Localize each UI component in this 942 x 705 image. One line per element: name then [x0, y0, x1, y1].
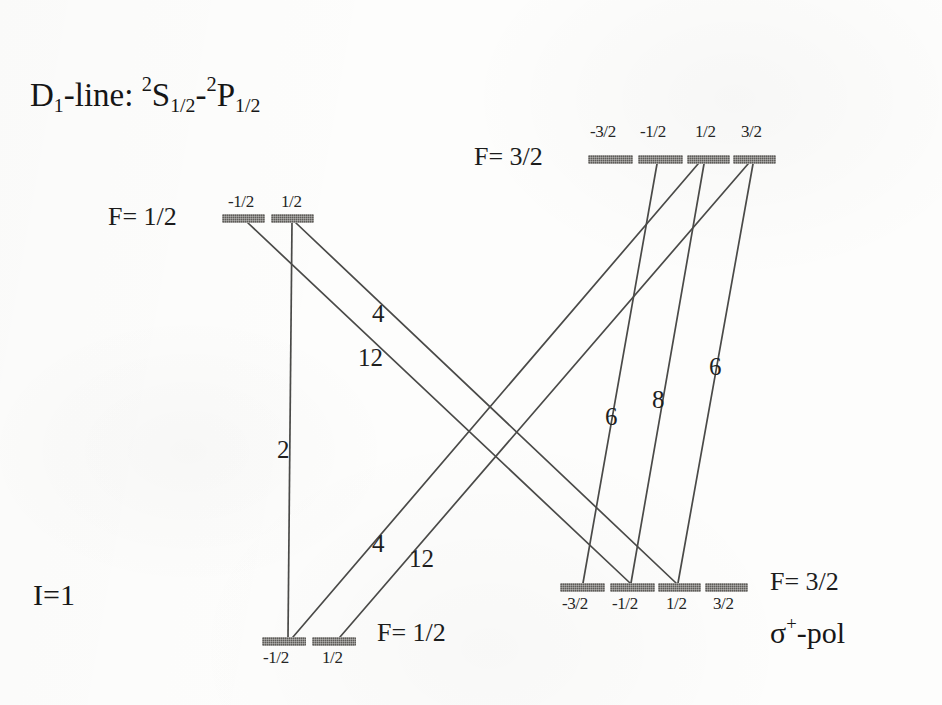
level-bar-lower-left-m1-2 — [312, 637, 356, 646]
level-bar-lower-right-m-3-2 — [560, 583, 605, 592]
sublevel-label-lower-left-m1-2: 1/2 — [322, 648, 343, 668]
level-group-label-upper-left: F= 1/2 — [108, 202, 177, 232]
level-bar-upper-left-m-1-2 — [222, 214, 265, 223]
transition-line-ul-half-to-lr-halfplus — [296, 223, 676, 583]
level-bar-upper-right-m-1-2 — [638, 155, 683, 164]
sublevel-label-upper-left-m-1-2: -1/2 — [228, 192, 254, 212]
sublevel-label-lower-left-m-1-2: -1/2 — [263, 648, 289, 668]
level-group-label-lower-right: F= 3/2 — [770, 567, 839, 597]
transition-line-ur-threehalf-to-ll-half — [340, 164, 748, 637]
sublevel-label-upper-left-m1-2: 1/2 — [281, 192, 302, 212]
transition-strength-ur-half-to-lr-minushalf: 8 — [652, 386, 665, 414]
transition-line-ul-half-to-ll-minushalf — [288, 223, 292, 637]
transition-strength-ul-half-to-ll-minushalf: 2 — [277, 436, 290, 464]
sublevel-label-upper-right-m-3-2: -3/2 — [590, 122, 616, 142]
sublevel-label-lower-right-m3-2: 3/2 — [713, 594, 734, 614]
transition-strength-ul-minushalf-to-lr-minushalf: 4 — [372, 300, 385, 328]
transition-line-ur-half-to-lr-minushalf — [631, 164, 704, 583]
sublevel-label-lower-right-m1-2: 1/2 — [666, 594, 687, 614]
sublevel-label-upper-right-m3-2: 3/2 — [741, 122, 762, 142]
transition-strength-ur-threehalf-to-lr-half: 6 — [709, 353, 722, 381]
level-bar-upper-right-m-3-2 — [588, 155, 633, 164]
level-bar-upper-right-m3-2 — [733, 155, 776, 164]
level-bar-lower-left-m-1-2 — [262, 637, 306, 646]
level-bar-lower-right-m-1-2 — [610, 583, 655, 592]
transition-line-ul-minushalf-to-lr-minushalf — [248, 223, 630, 583]
level-bar-lower-right-m1-2 — [658, 583, 701, 592]
transition-line-ur-half-to-ll-minushalf — [293, 164, 698, 637]
sublevel-label-lower-right-m-1-2: -1/2 — [612, 594, 638, 614]
transition-lines-layer — [0, 0, 942, 705]
level-group-label-upper-right: F= 3/2 — [474, 142, 543, 172]
sublevel-label-lower-right-m-3-2: -3/2 — [562, 594, 588, 614]
sublevel-label-upper-right-m-1-2: -1/2 — [640, 122, 666, 142]
transition-strength-ur-threehalf-to-ll-half: 12 — [409, 545, 434, 573]
level-bar-upper-right-m1-2 — [687, 155, 730, 164]
energy-level-diagram: D1-line: 2S1/2-2P1/2 I=1 σ+-pol F= 1/2-1… — [0, 0, 942, 705]
transition-strength-ul-half-to-lr-halfplus: 12 — [358, 344, 383, 372]
level-group-label-lower-left: F= 1/2 — [377, 618, 446, 648]
level-bar-lower-right-m3-2 — [705, 583, 748, 592]
transition-strength-ur-minushalf-to-lr-minusthreehalf: 6 — [605, 403, 618, 431]
sublevel-label-upper-right-m1-2: 1/2 — [695, 122, 716, 142]
level-bar-upper-left-m1-2 — [271, 214, 314, 223]
transition-strength-ur-half-to-ll-minushalf: 4 — [372, 530, 385, 558]
transition-line-ur-minushalf-to-lr-minusthreehalf — [583, 164, 657, 583]
